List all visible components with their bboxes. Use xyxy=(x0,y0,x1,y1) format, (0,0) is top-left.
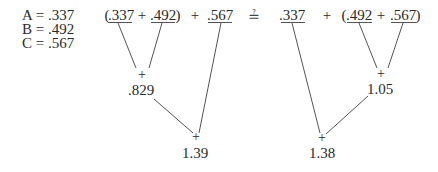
left-partial-plus: + xyxy=(138,68,146,82)
right-partial-plus: + xyxy=(377,67,385,81)
right-total: 1.38 xyxy=(309,146,335,161)
associativity-diagram: A = .337 B = .492 C = .567 ( .337 + .492… xyxy=(0,0,438,172)
left-total-plus: + xyxy=(192,130,200,144)
left-partial-sum: .829 xyxy=(128,83,154,98)
left-total: 1.39 xyxy=(182,146,208,161)
right-partial-sum: 1.05 xyxy=(367,82,393,97)
right-total-plus: + xyxy=(318,131,326,145)
